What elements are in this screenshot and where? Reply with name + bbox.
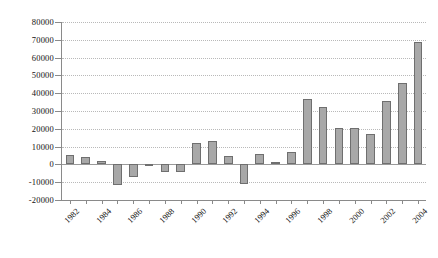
bar-2000 (350, 128, 359, 164)
bar-1991 (208, 141, 217, 164)
x-axis-label-1988: 1988 (148, 206, 176, 234)
gridline-30000 (62, 111, 426, 112)
x-axis-tick (102, 200, 103, 204)
x-axis-tick (355, 200, 356, 204)
y-axis-label: 30000 (32, 106, 54, 116)
x-axis-tick (402, 200, 403, 204)
x-axis-label-1994: 1994 (243, 206, 271, 234)
bar-1983 (81, 157, 90, 164)
y-axis-tick (55, 129, 61, 130)
bar-1998 (319, 107, 328, 164)
x-axis-tick (371, 200, 372, 204)
x-axis-tick (117, 200, 118, 204)
y-axis-tick (55, 58, 61, 59)
y-axis-tick (55, 164, 61, 165)
x-axis-tick (70, 200, 71, 204)
y-axis-tick (55, 75, 61, 76)
y-axis-tick (55, 40, 61, 41)
x-axis-tick (386, 200, 387, 204)
bar-1982 (66, 155, 75, 164)
y-axis-tick (55, 22, 61, 23)
bar-1993 (240, 164, 249, 184)
bar-1986 (129, 164, 138, 176)
x-axis-label-1982: 1982 (53, 206, 81, 234)
x-axis-label-2004: 2004 (401, 206, 429, 234)
gridline-20000 (62, 129, 426, 130)
x-axis-label-2002: 2002 (369, 206, 397, 234)
x-axis-tick (323, 200, 324, 204)
bar-1994 (255, 154, 264, 165)
y-axis-tick (55, 200, 61, 201)
y-axis-label: 10000 (32, 142, 54, 152)
bar-1996 (287, 152, 296, 164)
y-axis-tick (55, 93, 61, 94)
x-axis-tick (307, 200, 308, 204)
y-axis-label: 0 (50, 159, 54, 169)
gridline-50000 (62, 75, 426, 76)
bar-1995 (271, 162, 280, 164)
y-axis-label: 40000 (32, 88, 54, 98)
bar-1985 (113, 164, 122, 184)
x-axis-label-1990: 1990 (179, 206, 207, 234)
bar-1984 (97, 161, 106, 164)
bar-2003 (398, 83, 407, 165)
bar-2001 (366, 134, 375, 164)
x-axis-tick (418, 200, 419, 204)
bar-1987 (145, 164, 154, 166)
x-axis-tick (86, 200, 87, 204)
x-axis-label-1992: 1992 (211, 206, 239, 234)
x-axis-tick (149, 200, 150, 204)
x-axis-tick (276, 200, 277, 204)
x-axis-tick (228, 200, 229, 204)
gridline-80000 (62, 22, 426, 23)
y-axis-label: 80000 (32, 17, 54, 27)
bar-1999 (335, 128, 344, 164)
bar-2004 (414, 42, 423, 164)
gridline-60000 (62, 58, 426, 59)
x-axis-tick (212, 200, 213, 204)
gridline-70000 (62, 40, 426, 41)
x-axis-tick (181, 200, 182, 204)
gridline-40000 (62, 93, 426, 94)
y-axis-tick (55, 147, 61, 148)
bar-1990 (192, 143, 201, 164)
bar-1992 (224, 156, 233, 164)
y-axis-label: 70000 (32, 35, 54, 45)
y-axis-tick (55, 111, 61, 112)
bar-1989 (176, 164, 185, 171)
y-axis-label: 60000 (32, 53, 54, 63)
x-axis-tick (165, 200, 166, 204)
x-axis-tick (339, 200, 340, 204)
y-axis-label: -10000 (29, 177, 54, 187)
x-axis-tick (291, 200, 292, 204)
x-axis-tick (244, 200, 245, 204)
bar-1997 (303, 99, 312, 165)
x-axis-tick (260, 200, 261, 204)
x-axis-label-1984: 1984 (84, 206, 112, 234)
bar-1988 (161, 164, 170, 172)
x-axis-label-2000: 2000 (338, 206, 366, 234)
y-axis-label: 20000 (32, 124, 54, 134)
y-axis-label: -20000 (29, 195, 54, 205)
y-axis-label: 50000 (32, 70, 54, 80)
y-axis-tick (55, 182, 61, 183)
y-axis-spine (61, 22, 62, 200)
bar-chart: 8000070000600005000040000300002000010000… (0, 0, 438, 258)
x-axis-label-1998: 1998 (306, 206, 334, 234)
bar-2002 (382, 101, 391, 164)
x-axis-tick (197, 200, 198, 204)
x-axis-label-1986: 1986 (116, 206, 144, 234)
x-axis-label-1996: 1996 (274, 206, 302, 234)
x-axis-tick (133, 200, 134, 204)
